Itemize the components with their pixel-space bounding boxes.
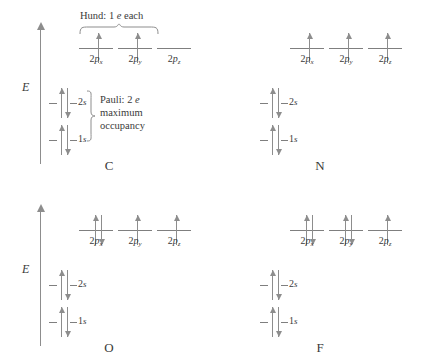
spin-down-arrow bbox=[64, 270, 71, 300]
orbital-1s-oxygen: 1s bbox=[49, 307, 95, 339]
pauli-annotation: Pauli: 2 e maximum occupancy bbox=[100, 93, 145, 132]
orbital-1s-nitrogen: 1s bbox=[260, 125, 306, 157]
element-symbol-carbon: C bbox=[97, 158, 121, 174]
orbital-2pz-oxygen: 2pz bbox=[157, 215, 191, 249]
spin-down-arrow bbox=[64, 307, 71, 337]
pauli-line-3: occupancy bbox=[100, 119, 145, 132]
orbital-level-line-right bbox=[70, 140, 77, 141]
orbital-label-2px: 2px bbox=[290, 53, 324, 66]
atom-panel-fluorine: 2px 2py 2pz 2s bbox=[215, 182, 427, 363]
orbital-label-1s: 1s bbox=[78, 315, 87, 326]
orbital-label-2py: 2py bbox=[118, 53, 152, 66]
orbital-level-line-left bbox=[49, 140, 57, 141]
orbital-2pz-fluorine: 2pz bbox=[368, 215, 402, 249]
orbital-label-2pz: 2pz bbox=[157, 53, 191, 66]
orbital-level-line-left bbox=[49, 103, 57, 104]
orbital-2s-nitrogen: 2s bbox=[260, 88, 306, 120]
energy-axis-line bbox=[40, 210, 41, 346]
energy-axis-label: E bbox=[22, 80, 29, 95]
orbital-level-line-right bbox=[281, 285, 288, 286]
orbital-2py-carbon: 2py bbox=[118, 33, 152, 67]
orbital-level-line bbox=[157, 48, 191, 49]
orbital-level-line-left bbox=[260, 285, 268, 286]
orbital-label-2s: 2s bbox=[289, 96, 298, 107]
spin-down-arrow bbox=[275, 125, 282, 155]
orbital-2s-fluorine: 2s bbox=[260, 270, 306, 302]
spin-down-arrow bbox=[64, 125, 71, 155]
orbital-level-line-right bbox=[281, 140, 288, 141]
orbital-label-2pz: 2pz bbox=[368, 53, 402, 66]
orbital-2py-fluorine: 2py bbox=[329, 215, 363, 249]
orbital-label-2pz: 2pz bbox=[157, 235, 191, 248]
orbital-level-line-left bbox=[260, 322, 268, 323]
orbital-2py-oxygen: 2py bbox=[118, 215, 152, 249]
orbital-level-line-right bbox=[70, 285, 77, 286]
spin-down-arrow bbox=[275, 88, 282, 118]
orbital-level-line-right bbox=[281, 322, 288, 323]
atom-panel-oxygen: E 2px 2py 2pz 2s bbox=[0, 182, 215, 363]
orbital-1s-fluorine: 1s bbox=[260, 307, 306, 339]
atom-panel-nitrogen: 2px 2py 2pz 2s 1s bbox=[215, 0, 427, 182]
orbital-label-2pz: 2pz bbox=[368, 235, 402, 248]
orbital-level-line-left bbox=[260, 103, 268, 104]
orbital-level-line-right bbox=[281, 103, 288, 104]
orbital-2px-carbon: 2px bbox=[79, 33, 113, 67]
spin-down-arrow bbox=[275, 307, 282, 337]
orbital-label-2s: 2s bbox=[78, 278, 87, 289]
pauli-line-2: maximum bbox=[100, 106, 145, 119]
orbital-2px-nitrogen: 2px bbox=[290, 33, 324, 67]
orbital-label-2py: 2py bbox=[118, 235, 152, 248]
element-symbol-oxygen: O bbox=[97, 340, 121, 356]
element-symbol-fluorine: F bbox=[308, 340, 332, 356]
orbital-label-2py: 2py bbox=[329, 53, 363, 66]
orbital-level-line-right bbox=[70, 103, 77, 104]
orbital-label-1s: 1s bbox=[289, 315, 298, 326]
orbital-level-line-left bbox=[49, 322, 57, 323]
hund-prefix: Hund: 1 bbox=[80, 10, 117, 21]
orbital-2pz-nitrogen: 2pz bbox=[368, 33, 402, 67]
orbital-label-2px: 2px bbox=[79, 53, 113, 66]
spin-down-arrow bbox=[275, 270, 282, 300]
orbital-level-line-left bbox=[49, 285, 57, 286]
energy-axis-line bbox=[40, 28, 41, 164]
hund-annotation: Hund: 1 e each bbox=[80, 9, 143, 22]
pauli-line-1: Pauli: 2 e bbox=[100, 93, 145, 106]
energy-axis-carbon: E bbox=[22, 22, 48, 164]
orbital-2s-oxygen: 2s bbox=[49, 270, 95, 302]
orbital-2px-oxygen: 2px bbox=[79, 215, 113, 249]
orbital-2px-fluorine: 2px bbox=[290, 215, 324, 249]
orbital-label-2px: 2px bbox=[79, 235, 113, 248]
energy-axis-oxygen: E bbox=[22, 204, 48, 346]
orbital-label-1s: 1s bbox=[289, 133, 298, 144]
orbital-label-2py: 2py bbox=[329, 235, 363, 248]
orbital-level-line-right bbox=[70, 322, 77, 323]
orbital-label-2px: 2px bbox=[290, 235, 324, 248]
energy-axis-label: E bbox=[22, 262, 29, 277]
orbital-2pz-carbon: 2pz bbox=[157, 33, 191, 67]
spin-down-arrow bbox=[64, 88, 71, 118]
orbital-level-line-left bbox=[260, 140, 268, 141]
orbital-label-2s: 2s bbox=[289, 278, 298, 289]
orbital-2py-nitrogen: 2py bbox=[329, 33, 363, 67]
element-symbol-nitrogen: N bbox=[308, 158, 332, 174]
pauli-brace bbox=[86, 90, 97, 142]
hund-suffix: each bbox=[121, 10, 143, 21]
atom-panel-carbon: E Hund: 1 e each 2px 2py 2pz bbox=[0, 0, 215, 182]
